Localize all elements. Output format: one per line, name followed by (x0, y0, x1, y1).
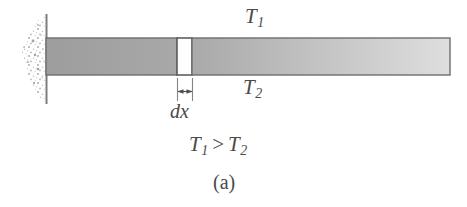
figure-caption: (a) (213, 172, 235, 192)
label-dx: dx (170, 101, 189, 121)
label-t1-subscript: 1 (257, 15, 264, 30)
differential-element-dx (177, 38, 192, 75)
label-t2-subscript: 2 (255, 86, 262, 101)
label-t1-base: T (245, 4, 257, 28)
bar-segment-right (192, 38, 450, 75)
inequality-right-subscript: 2 (240, 143, 247, 158)
bar-segment-left (46, 38, 177, 75)
label-t2-base: T (243, 75, 255, 99)
inequality-operator: > (208, 132, 228, 156)
label-inequality: T1>T2 (189, 134, 247, 158)
inequality-left-base: T (189, 132, 201, 156)
inequality-right-base: T (228, 132, 240, 156)
inequality-left-subscript: 1 (201, 143, 208, 158)
label-t1: T1 (245, 6, 264, 30)
label-t2: T2 (243, 77, 262, 101)
